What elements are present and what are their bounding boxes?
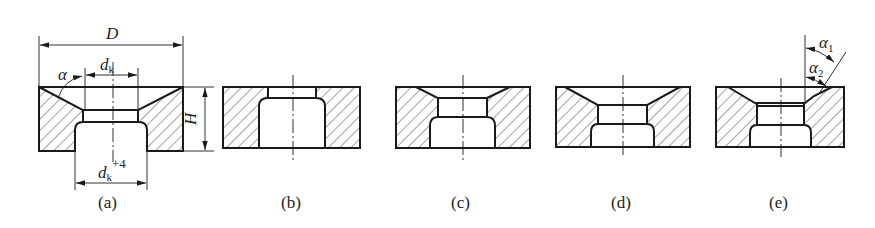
dim-label-H: H <box>181 111 200 126</box>
dim-label-dk: dk <box>100 55 115 75</box>
dim-label-dk-plus4: dk+4 <box>98 156 126 183</box>
section-a-left <box>39 87 83 151</box>
panel-c: (c) <box>396 75 530 212</box>
section-a-right <box>138 87 183 151</box>
caption-d: (d) <box>611 193 631 212</box>
panel-e: α1 α2 (e) <box>716 33 846 212</box>
dim-label-alpha: α <box>58 65 68 84</box>
panel-a: D dk α H dk+4 (a) <box>39 24 214 212</box>
caption-c: (c) <box>451 193 470 212</box>
dim-label-alpha1: α1 <box>819 33 833 54</box>
die-cross-sections-diagram: D dk α H dk+4 (a) (b) <box>0 0 875 228</box>
dim-label-D: D <box>105 24 119 43</box>
dim-label-alpha2: α2 <box>809 58 823 79</box>
panel-b: (b) <box>223 75 360 212</box>
caption-b: (b) <box>281 193 301 212</box>
panel-d: (d) <box>556 75 690 212</box>
caption-a: (a) <box>98 193 117 212</box>
caption-e: (e) <box>769 193 788 212</box>
